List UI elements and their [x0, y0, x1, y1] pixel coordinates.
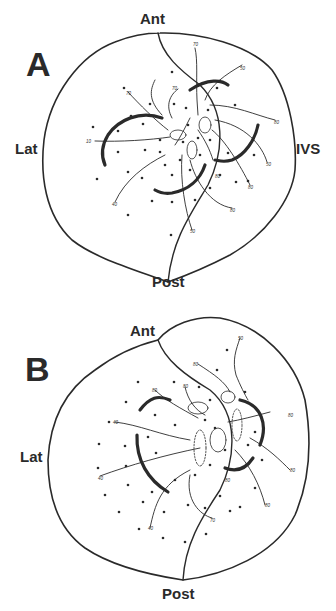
svg-text:80: 80 [225, 478, 231, 483]
svg-text:40: 40 [98, 476, 104, 481]
svg-text:80: 80 [152, 388, 158, 393]
electrode-dots-b [97, 349, 264, 544]
svg-text:80: 80 [215, 174, 221, 179]
svg-text:70: 70 [172, 86, 178, 91]
svg-text:80: 80 [288, 413, 294, 418]
svg-text:80: 80 [290, 468, 296, 473]
activation-arrow-b2 [137, 435, 168, 492]
activation-arrow-a3 [215, 125, 258, 161]
panel-b: B Ant Lat Post [0, 300, 336, 611]
activation-arrow-b3 [240, 400, 263, 445]
svg-text:70: 70 [210, 518, 216, 523]
svg-text:50: 50 [238, 336, 244, 341]
septal-boundary-b [158, 340, 232, 580]
svg-text:70: 70 [193, 42, 199, 47]
heart-outline-a [43, 33, 296, 282]
svg-text:70: 70 [126, 91, 132, 96]
svg-text:80: 80 [265, 503, 271, 508]
svg-text:40: 40 [113, 420, 119, 425]
svg-text:80: 80 [193, 362, 199, 367]
activation-arrow-a1 [102, 115, 162, 165]
svg-text:40: 40 [148, 526, 154, 531]
svg-text:50: 50 [240, 66, 246, 71]
svg-text:80: 80 [248, 185, 254, 190]
svg-text:80: 80 [274, 120, 280, 125]
svg-text:40: 40 [112, 202, 118, 207]
activation-arrow-b1 [140, 397, 170, 410]
svg-text:80: 80 [183, 384, 189, 389]
activation-map-b: 50 80 80 80 40 40 80 80 80 40 70 80 [0, 300, 336, 611]
activation-map-a: 70 50 70 10 80 50 80 70 80 40 80 50 [0, 0, 336, 300]
svg-text:10: 10 [86, 139, 92, 144]
svg-text:50: 50 [190, 229, 196, 234]
svg-text:80: 80 [230, 208, 236, 213]
panel-a: A Ant Lat IVS Post [0, 0, 336, 300]
heart-outline-b [48, 317, 309, 580]
svg-text:50: 50 [266, 162, 272, 167]
